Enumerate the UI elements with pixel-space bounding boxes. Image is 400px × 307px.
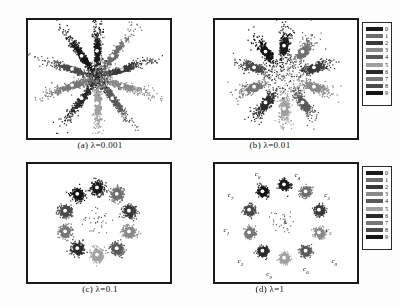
legend-label-8: 8 <box>385 227 388 233</box>
panel-a: (a) λ=0.001 <box>0 4 200 154</box>
panel-d-caption: (d) λ=1 <box>170 284 370 294</box>
legend-label-9: 9 <box>385 234 388 240</box>
legend-item: 8 <box>365 83 389 90</box>
legend-label-1: 1 <box>385 177 388 183</box>
legend-item: 9 <box>365 234 389 241</box>
plot-area-d: c8c4c7c5c1c3c2c0c9c6 <box>213 162 359 284</box>
legend-swatch-2 <box>366 185 383 189</box>
cluster-label-c0: c0 <box>331 257 337 266</box>
legend-label-4: 4 <box>385 198 388 204</box>
legend-item: 6 <box>365 68 389 75</box>
plot-area-b <box>213 18 359 140</box>
legend-swatch-9 <box>366 235 383 239</box>
legend-label-7: 7 <box>385 76 388 82</box>
cluster-label-c2: c2 <box>238 257 244 266</box>
cluster-label-c1: c1 <box>224 227 230 236</box>
legend-item: 5 <box>365 61 389 68</box>
legend-swatch-6 <box>366 214 383 218</box>
legend-item: 8 <box>365 227 389 234</box>
cluster-label-c8: c8 <box>255 170 261 179</box>
legend-item: 0 <box>365 169 389 176</box>
legend-label-5: 5 <box>385 206 388 212</box>
cluster-label-c6: c6 <box>303 265 309 274</box>
legend-item: 7 <box>365 75 389 82</box>
legend-swatch-5 <box>366 63 383 67</box>
legend-label-6: 6 <box>385 69 388 75</box>
plot-area-c <box>26 162 172 284</box>
legend-item: 9 <box>365 90 389 97</box>
legend-label-7: 7 <box>385 220 388 226</box>
legend-swatch-5 <box>366 207 383 211</box>
scatter-canvas-c <box>28 164 166 278</box>
legend-item: 5 <box>365 205 389 212</box>
figure-container: (a) λ=0.001 0 1 2 3 4 5 6 7 8 9 (b) λ=0.… <box>0 0 400 307</box>
legend-swatch-0 <box>366 171 383 175</box>
legend-swatch-0 <box>366 27 383 31</box>
legend-item: 4 <box>365 54 389 61</box>
legend-swatch-2 <box>366 41 383 45</box>
legend-swatch-8 <box>366 84 383 88</box>
legend-swatch-7 <box>366 77 383 81</box>
scatter-canvas-b <box>215 20 353 134</box>
legend-item: 7 <box>365 219 389 226</box>
panel-b-caption: (b) λ=0.01 <box>170 140 370 150</box>
legend-label-2: 2 <box>385 184 388 190</box>
legend-label-6: 6 <box>385 213 388 219</box>
legend-swatch-4 <box>366 199 383 203</box>
legend-swatch-6 <box>366 70 383 74</box>
legend-d: 0 1 2 3 4 5 6 7 8 9 <box>362 166 392 250</box>
legend-item: 2 <box>365 39 389 46</box>
legend-label-1: 1 <box>385 33 388 39</box>
legend-swatch-1 <box>366 34 383 38</box>
panel-b: 0 1 2 3 4 5 6 7 8 9 (b) λ=0.01 <box>200 4 400 154</box>
legend-swatch-3 <box>366 48 383 52</box>
legend-item: 4 <box>365 198 389 205</box>
legend-item: 1 <box>365 176 389 183</box>
legend-item: 3 <box>365 47 389 54</box>
cluster-label-c9: c9 <box>266 270 272 279</box>
legend-swatch-9 <box>366 91 383 95</box>
legend-label-9: 9 <box>385 90 388 96</box>
panel-d: c8c4c7c5c1c3c2c0c9c6 0 1 2 3 4 5 6 7 8 9… <box>200 156 400 307</box>
legend-label-8: 8 <box>385 83 388 89</box>
plot-area-a <box>26 18 172 140</box>
legend-b: 0 1 2 3 4 5 6 7 8 9 <box>362 22 392 106</box>
legend-item: 6 <box>365 212 389 219</box>
legend-label-0: 0 <box>385 26 388 32</box>
cluster-label-layer: c8c4c7c5c1c3c2c0c9c6 <box>215 164 357 282</box>
legend-label-3: 3 <box>385 191 388 197</box>
legend-label-2: 2 <box>385 40 388 46</box>
legend-item: 1 <box>365 32 389 39</box>
legend-swatch-7 <box>366 221 383 225</box>
legend-label-4: 4 <box>385 54 388 60</box>
cluster-label-c4: c4 <box>295 171 301 180</box>
cluster-label-c7: c7 <box>228 191 234 200</box>
legend-item: 2 <box>365 183 389 190</box>
legend-swatch-8 <box>366 228 383 232</box>
cluster-label-c3: c3 <box>326 227 332 236</box>
cluster-label-c5: c5 <box>324 191 330 200</box>
legend-label-5: 5 <box>385 62 388 68</box>
legend-label-0: 0 <box>385 170 388 176</box>
legend-label-3: 3 <box>385 47 388 53</box>
legend-swatch-3 <box>366 192 383 196</box>
scatter-canvas-a <box>28 20 166 134</box>
legend-swatch-1 <box>366 178 383 182</box>
legend-swatch-4 <box>366 55 383 59</box>
legend-item: 3 <box>365 191 389 198</box>
legend-item: 0 <box>365 25 389 32</box>
